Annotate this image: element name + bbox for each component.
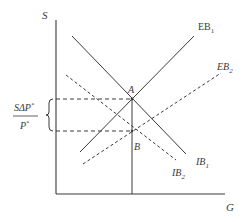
curve-eb1 xyxy=(80,36,194,152)
point-b-marker xyxy=(131,130,133,132)
y-axis-label: S xyxy=(42,9,48,21)
curve-eb1-label: EB1 xyxy=(198,21,215,35)
curve-eb2 xyxy=(83,73,221,164)
curve-ib1-label: IB1 xyxy=(195,156,209,170)
fraction-numerator: SΔP* xyxy=(14,102,34,113)
x-axis-label: G xyxy=(226,201,234,213)
diagram-canvas: S G A B EB1 IB1 EB2 IB2 SΔP* P* xyxy=(0,0,247,222)
fraction-denominator: P* xyxy=(19,120,29,131)
brace xyxy=(46,99,53,131)
curve-ib2 xyxy=(66,75,176,160)
curve-eb2-label: EB2 xyxy=(216,61,233,75)
curve-ib2-label: IB2 xyxy=(171,167,185,181)
point-a-label: A xyxy=(127,84,135,95)
curve-ib1 xyxy=(72,36,186,154)
point-a-marker xyxy=(131,98,134,101)
point-b-label: B xyxy=(134,141,140,152)
